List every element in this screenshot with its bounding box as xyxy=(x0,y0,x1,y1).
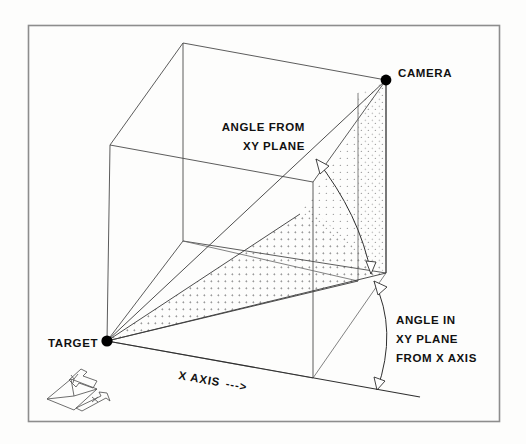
box-top-back-right-edge xyxy=(183,43,386,80)
box-vertical-edge-left xyxy=(107,145,110,341)
angle-in-xy-plane-label-line1: ANGLE IN xyxy=(396,314,456,326)
diagram-root: CAMERA TARGET ANGLE FROM XY PLANE ANGLE … xyxy=(0,0,526,444)
x-axis-arrow-label: ---> xyxy=(225,377,248,393)
angle-from-xy-plane-label-line2: XY PLANE xyxy=(243,140,305,152)
x-axis-label: X AXIS xyxy=(178,369,222,388)
diagram-canvas: CAMERA TARGET ANGLE FROM XY PLANE ANGLE … xyxy=(0,0,526,444)
azimuth-angle-annotation xyxy=(374,281,387,390)
angle-from-xy-plane-label-line1: ANGLE FROM xyxy=(222,121,305,133)
elevation-arc-arrowhead-top xyxy=(316,159,329,174)
angle-in-xy-plane-label-line3: FROM X AXIS xyxy=(396,352,477,364)
camera-label: CAMERA xyxy=(398,67,452,79)
camera-node-dot xyxy=(381,75,392,86)
azimuth-arc-arrowhead-bottom xyxy=(374,377,385,390)
box-right-face-shaded xyxy=(358,80,386,281)
xy-axes-indicator xyxy=(47,369,110,411)
angle-in-xy-plane-label-line2: XY PLANE xyxy=(396,333,458,345)
box-top-back-left-edge xyxy=(110,43,183,145)
angle-in-xy-plane-arc xyxy=(374,281,387,390)
azimuth-arc-arrowhead-top xyxy=(374,281,387,295)
x-axis-line xyxy=(107,341,420,397)
target-node-dot xyxy=(101,335,112,346)
target-label: TARGET xyxy=(48,337,98,349)
